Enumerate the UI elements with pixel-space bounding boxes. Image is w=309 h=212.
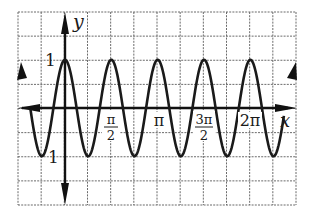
y-axis-label: y	[72, 10, 84, 32]
x-tick-label-three-pi-half: 3π 2	[193, 111, 215, 143]
svg-text:2: 2	[200, 128, 208, 143]
x-tick-label-two-pi: 2π	[238, 111, 262, 130]
cosine-graph: y 1 1 π 2 π 3π 2 2π x	[0, 0, 309, 212]
svg-text:2: 2	[107, 128, 115, 143]
x-tick-label-pi-half: π 2	[102, 111, 120, 143]
y-tick-label-1: 1	[45, 50, 56, 70]
svg-text:π: π	[107, 112, 116, 127]
svg-text:π: π	[154, 111, 165, 130]
y-axis-down-arrow-icon	[61, 183, 69, 205]
x-axis-left-arrow-icon	[18, 104, 40, 112]
y-tick-label-minus-1: 1	[48, 147, 59, 167]
x-axis-label: x	[280, 110, 290, 131]
y-axis-up-arrow-icon	[61, 12, 69, 34]
curve-right-arrow-icon	[287, 62, 297, 80]
svg-text:2π: 2π	[240, 111, 261, 130]
x-tick-label-pi: π	[151, 111, 167, 130]
svg-text:3π: 3π	[196, 112, 213, 127]
